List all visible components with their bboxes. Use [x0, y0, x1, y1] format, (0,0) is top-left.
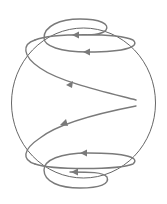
arrowhead-icon [83, 49, 90, 56]
arrowhead-icon [60, 119, 68, 126]
lower-spiral-outer-loop [35, 153, 135, 188]
upper-spiral-outer-loop [35, 19, 135, 52]
upper-spiral-branch [26, 40, 136, 100]
arrowhead-icon [71, 169, 78, 176]
diagram-canvas: Spiral flow lines on a sphere [0, 0, 167, 204]
upper-spiral [26, 19, 136, 100]
lower-spiral-branch [26, 106, 136, 164]
arrowhead-icon [72, 32, 79, 39]
lower-spiral [26, 106, 136, 188]
sphere-spiral-diagram [0, 0, 167, 204]
sphere-outline [12, 28, 156, 178]
arrowhead-icon [80, 150, 87, 157]
